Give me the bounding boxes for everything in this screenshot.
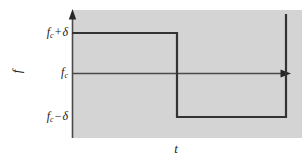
fsk-frequency-vs-time-figure: f fc+δ fc fc−δ t	[0, 0, 302, 165]
y-tick-low-term: δ	[62, 109, 68, 123]
plot-vector-overlay	[0, 0, 302, 165]
y-tick-label-mid: fc	[6, 66, 68, 80]
y-tick-label-low: fc−δ	[6, 110, 68, 124]
y-tick-label-high: fc+δ	[6, 26, 68, 40]
y-tick-mid-subscript: c	[64, 71, 68, 80]
x-axis-title: t	[166, 142, 186, 155]
y-tick-high-term: δ	[62, 25, 68, 39]
fsk-step-waveform	[72, 14, 286, 117]
x-axis-line-group	[73, 70, 292, 78]
y-axis-arrowhead-icon	[69, 9, 76, 20]
